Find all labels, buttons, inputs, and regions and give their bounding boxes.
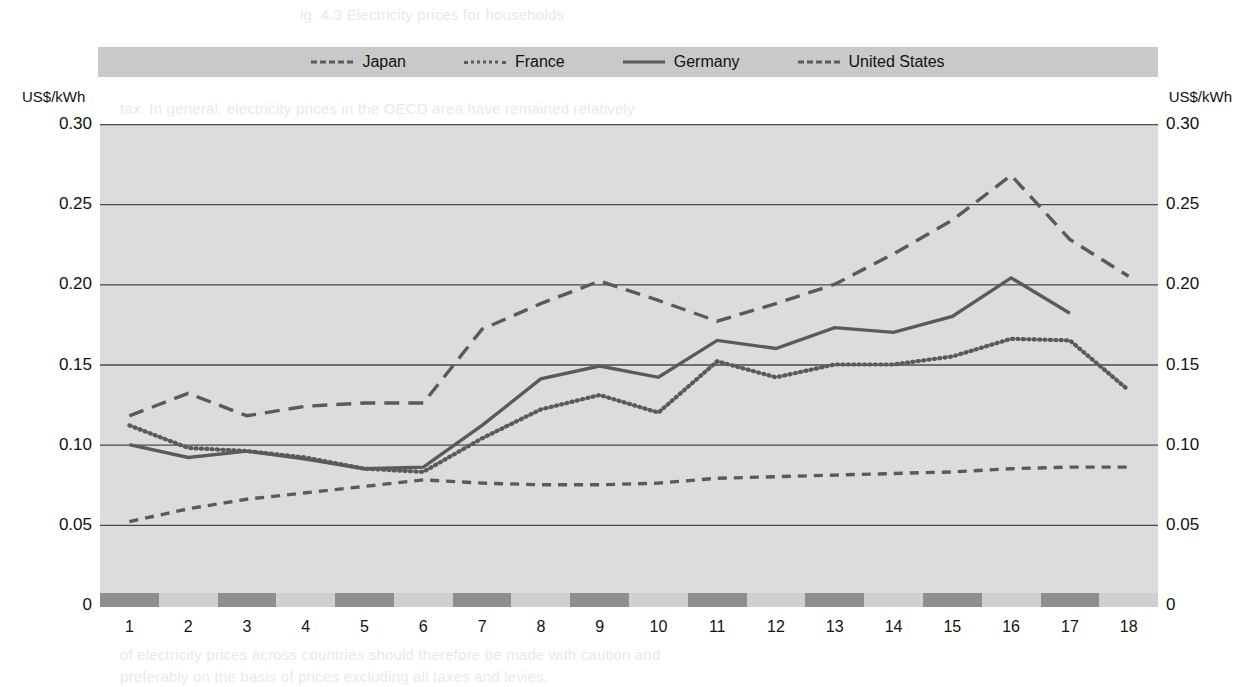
x-axis-band [1041, 593, 1100, 607]
x-axis-band [688, 593, 747, 607]
x-axis-band-strip [100, 593, 1158, 607]
x-axis-band [394, 593, 453, 607]
x-axis-band [159, 593, 218, 607]
x-tick-label: 10 [629, 618, 688, 642]
dotted-line-sample [464, 57, 506, 67]
short-dashed-line-sample [798, 57, 840, 67]
y-tick-label-right: 0.05 [1166, 515, 1199, 535]
legend-label-united-states: United States [849, 53, 945, 71]
x-tick-label: 5 [335, 618, 394, 642]
legend-item-united-states[interactable]: United States [798, 53, 945, 71]
y-axis-unit-right: US$/kWh [1169, 88, 1232, 105]
y-axis-unit-left: US$/kWh [22, 88, 85, 105]
chart-legend: Japan France Germany United States [98, 47, 1158, 77]
series-line-japan [129, 175, 1128, 415]
x-axis-band [982, 593, 1041, 607]
series-canvas [100, 124, 1158, 605]
x-tick-label: 16 [982, 618, 1041, 642]
x-axis-band [570, 593, 629, 607]
x-tick-label: 18 [1099, 618, 1158, 642]
legend-label-france: France [515, 53, 565, 71]
y-tick-label-left: 0.20 [59, 274, 92, 294]
x-axis-band [747, 593, 806, 607]
y-tick-label-left: 0.30 [59, 114, 92, 134]
y-tick-label-right: 0.25 [1166, 194, 1199, 214]
x-tick-label: 7 [453, 618, 512, 642]
dashed-line-sample [311, 57, 353, 67]
series-line-germany [129, 278, 1069, 469]
legend-item-france[interactable]: France [464, 53, 565, 71]
x-tick-label: 1 [100, 618, 159, 642]
electricity-price-line-chart: Japan France Germany United States US$/k… [0, 0, 1258, 687]
x-tick-label: 8 [511, 618, 570, 642]
x-axis-band [629, 593, 688, 607]
x-axis-band [335, 593, 394, 607]
x-tick-label: 13 [805, 618, 864, 642]
y-tick-label-left: 0 [83, 595, 92, 615]
x-tick-label: 11 [688, 618, 747, 642]
x-axis-ticks: 123456789101112131415161718 [100, 618, 1158, 642]
x-tick-label: 6 [394, 618, 453, 642]
x-tick-label: 4 [276, 618, 335, 642]
x-axis-band [453, 593, 512, 607]
y-tick-label-right: 0.15 [1166, 355, 1199, 375]
x-axis-band [218, 593, 277, 607]
y-tick-label-right: 0.30 [1166, 114, 1199, 134]
y-tick-label-right: 0.20 [1166, 274, 1199, 294]
series-line-united-states [129, 467, 1128, 521]
plot-area [100, 124, 1158, 605]
x-axis-band [511, 593, 570, 607]
y-tick-label-left: 0.15 [59, 355, 92, 375]
x-axis-band [864, 593, 923, 607]
x-tick-label: 12 [747, 618, 806, 642]
x-tick-label: 3 [218, 618, 277, 642]
y-tick-label-right: 0.10 [1166, 435, 1199, 455]
x-axis-band [276, 593, 335, 607]
legend-label-germany: Germany [674, 53, 740, 71]
legend-item-japan[interactable]: Japan [311, 53, 406, 71]
y-tick-label-left: 0.05 [59, 515, 92, 535]
x-tick-label: 15 [923, 618, 982, 642]
x-tick-label: 2 [159, 618, 218, 642]
x-tick-label: 17 [1041, 618, 1100, 642]
x-axis-band [923, 593, 982, 607]
series-line-france [129, 339, 1128, 472]
y-tick-label-left: 0.25 [59, 194, 92, 214]
legend-item-germany[interactable]: Germany [623, 53, 740, 71]
x-tick-label: 14 [864, 618, 923, 642]
solid-line-sample [623, 57, 665, 67]
x-axis-band [1099, 593, 1158, 607]
x-axis-band [805, 593, 864, 607]
legend-label-japan: Japan [362, 53, 406, 71]
x-axis-band [100, 593, 159, 607]
y-tick-label-left: 0.10 [59, 435, 92, 455]
x-tick-label: 9 [570, 618, 629, 642]
y-tick-label-right: 0 [1166, 595, 1175, 615]
